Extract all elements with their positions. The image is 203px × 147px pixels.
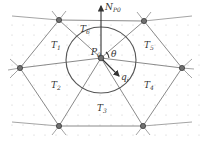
grid-dot [33, 24, 34, 25]
grid-dot [11, 34, 12, 35]
grid-dot [143, 24, 144, 25]
grid-dot [187, 24, 188, 25]
grid-dot [99, 74, 100, 75]
grid-dot [88, 74, 89, 75]
grid-dot [198, 54, 199, 55]
grid-dot [44, 114, 45, 115]
grid-dot [121, 104, 122, 105]
grid-dot [143, 74, 144, 75]
grid-dot [132, 24, 133, 25]
grid-dot [11, 104, 12, 105]
center-node-label: P0 [90, 47, 101, 58]
grid-dot [66, 124, 67, 125]
grid-dot [11, 124, 12, 125]
grid-dot [22, 94, 23, 95]
grid-dot [143, 114, 144, 115]
grid-dot [44, 74, 45, 75]
grid-dot [22, 84, 23, 85]
edge [12, 16, 59, 20]
grid-dot [154, 94, 155, 95]
grid-dot [165, 34, 166, 35]
grid-dot [44, 24, 45, 25]
grid-dot [88, 64, 89, 65]
grid-dot [121, 64, 122, 65]
grid-dot [176, 34, 177, 35]
grid-dot [88, 124, 89, 125]
grid-dot [22, 24, 23, 25]
grid-dot [99, 114, 100, 115]
grid-dot [55, 94, 56, 95]
grid-dot [121, 134, 122, 135]
grid-dot [55, 134, 56, 135]
angle-label: θ [111, 49, 117, 59]
grid-dot [176, 124, 177, 125]
grid-dot [110, 114, 111, 115]
grid-dot [110, 134, 111, 135]
grid-dot [176, 104, 177, 105]
triangle-label: T6 [80, 24, 90, 35]
grid-dot [77, 64, 78, 65]
grid-dot [121, 24, 122, 25]
grid-dot [198, 94, 199, 95]
grid-dot [77, 44, 78, 45]
grid-dot [33, 94, 34, 95]
grid-dot [22, 44, 23, 45]
grid-dot [44, 54, 45, 55]
grid-dot [198, 34, 199, 35]
grid-dot [132, 54, 133, 55]
grid-dot [187, 54, 188, 55]
grid-dot [11, 44, 12, 45]
grid-dot [66, 94, 67, 95]
grid-dot [77, 74, 78, 75]
grid-dot [99, 134, 100, 135]
grid-dot [132, 104, 133, 105]
grid-dot [165, 44, 166, 45]
grid-dot [88, 54, 89, 55]
grid-dot [154, 44, 155, 45]
grid-dot [154, 104, 155, 105]
grid-dot [77, 104, 78, 105]
grid-dot [176, 64, 177, 65]
grid-dot [99, 94, 100, 95]
grid-dot [132, 94, 133, 95]
grid-dot [187, 94, 188, 95]
grid-dot [44, 34, 45, 35]
grid-dot [33, 54, 34, 55]
grid-dot [198, 44, 199, 45]
triangle-label: T4 [144, 80, 154, 91]
mesh-node [140, 123, 145, 128]
grid-dot [154, 114, 155, 115]
grid-dot [99, 24, 100, 25]
grid-dot [110, 104, 111, 105]
grid-dot [110, 124, 111, 125]
grid-dot [55, 74, 56, 75]
edge [101, 58, 182, 68]
background-dot-grid [11, 24, 199, 135]
grid-dot [121, 44, 122, 45]
grid-dot [198, 74, 199, 75]
grid-dot [66, 84, 67, 85]
grid-dot [11, 94, 12, 95]
grid-dot [121, 84, 122, 85]
direction-vector-label: qi [121, 72, 129, 83]
grid-dot [22, 134, 23, 135]
grid-dot [165, 84, 166, 85]
grid-dot [66, 34, 67, 35]
grid-dot [88, 24, 89, 25]
grid-dot [55, 54, 56, 55]
grid-dot [11, 114, 12, 115]
grid-dot [88, 44, 89, 45]
grid-dot [55, 114, 56, 115]
grid-dot [132, 64, 133, 65]
grid-dot [11, 54, 12, 55]
grid-dot [176, 24, 177, 25]
mesh-node [17, 65, 22, 70]
grid-dot [154, 84, 155, 85]
grid-dot [165, 104, 166, 105]
edge [20, 58, 101, 68]
grid-dot [176, 84, 177, 85]
grid-dot [55, 104, 56, 105]
grid-dot [77, 124, 78, 125]
grid-dot [198, 24, 199, 25]
grid-dot [110, 44, 111, 45]
